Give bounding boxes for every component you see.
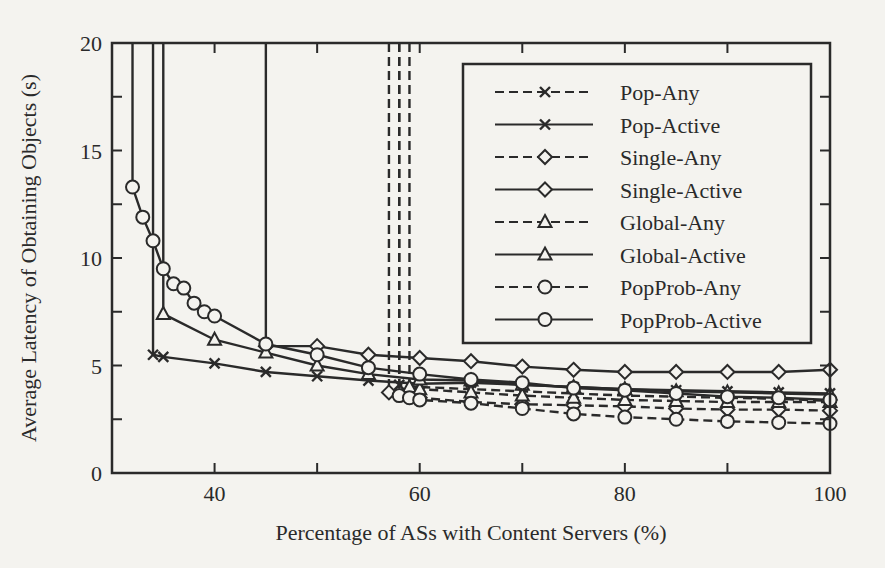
diamond-marker [618, 365, 632, 379]
diamond-marker [361, 348, 375, 362]
circle-marker [177, 282, 190, 295]
diamond-marker [567, 363, 581, 377]
x-tick-label: 40 [204, 481, 226, 506]
circle-marker [259, 338, 272, 351]
y-tick-label: 10 [80, 246, 102, 271]
y-axis-title: Average Latency of Obtaining Objects (s) [16, 74, 41, 442]
legend-label: PopProb-Any [620, 275, 741, 300]
legend-label: Global-Any [620, 210, 725, 235]
circle-marker [465, 373, 478, 386]
legend-label: Single-Active [620, 178, 742, 203]
circle-marker [618, 411, 631, 424]
circle-marker [126, 181, 139, 194]
circle-marker [721, 390, 734, 403]
circle-marker [772, 391, 785, 404]
circle-marker [516, 376, 529, 389]
circle-marker [413, 368, 426, 381]
diamond-marker [464, 354, 478, 368]
circle-marker [539, 313, 552, 326]
circle-marker [567, 382, 580, 395]
circle-marker [465, 397, 478, 410]
circle-marker [618, 384, 631, 397]
y-tick-label: 15 [80, 139, 102, 164]
triangle-marker [157, 307, 170, 319]
y-tick-label: 0 [91, 461, 102, 486]
legend-label: Single-Any [620, 145, 721, 170]
x-tick-label: 60 [409, 481, 431, 506]
legend: Pop-AnyPop-ActiveSingle-AnySingle-Active… [463, 64, 811, 343]
diamond-marker [772, 365, 786, 379]
legend-label: Global-Active [620, 243, 746, 268]
legend-label: Pop-Any [620, 80, 699, 105]
legend-label: Pop-Active [620, 113, 720, 138]
circle-marker [362, 361, 375, 374]
diamond-marker [669, 365, 683, 379]
circle-marker [136, 211, 149, 224]
diamond-marker [515, 360, 529, 374]
y-tick-label: 5 [91, 354, 102, 379]
x-tick-label: 80 [614, 481, 636, 506]
circle-marker [567, 407, 580, 420]
circle-marker [670, 387, 683, 400]
latency-chart: 40608010005101520 Average Latency of Obt… [0, 0, 885, 568]
legend-label: PopProb-Active [620, 308, 762, 333]
circle-marker [539, 281, 552, 294]
diamond-marker [720, 365, 734, 379]
circle-marker [721, 415, 734, 428]
circle-marker [311, 348, 324, 361]
circle-marker [413, 393, 426, 406]
circle-marker [157, 262, 170, 275]
circle-marker [670, 413, 683, 426]
circle-marker [516, 402, 529, 415]
y-tick-label: 20 [80, 31, 102, 56]
circle-marker [208, 310, 221, 323]
x-axis-title: Percentage of ASs with Content Servers (… [275, 520, 666, 545]
diamond-marker [413, 351, 427, 365]
x-tick-label: 100 [814, 481, 847, 506]
legend-box [463, 64, 811, 343]
circle-marker [772, 416, 785, 429]
circle-marker [147, 234, 160, 247]
